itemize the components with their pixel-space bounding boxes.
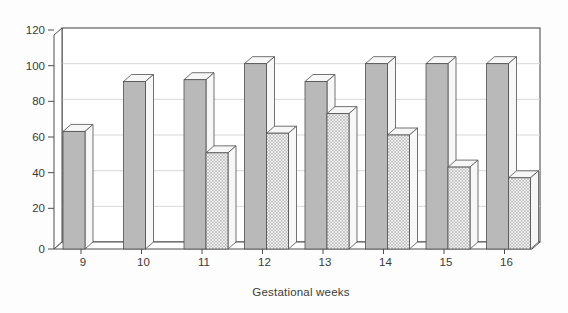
bar-week15-solid-front-face bbox=[426, 64, 448, 249]
bar-week16-hatched-side-face bbox=[531, 171, 539, 249]
y-tick-label: 100 bbox=[26, 60, 45, 72]
bar-week10-solid-side-face bbox=[146, 75, 154, 250]
bar-week16-solid-front-face bbox=[487, 64, 509, 249]
bar-week9-solid-front-face bbox=[63, 131, 85, 249]
x-tick-label: 9 bbox=[80, 256, 86, 268]
bar-week14-solid-front-face bbox=[366, 64, 388, 249]
bar-week15-hatched-side-face bbox=[470, 160, 478, 249]
bar-week13-solid-front-face bbox=[305, 82, 327, 250]
bar-chart-figure: 020406080100120910111213141516 Gestation… bbox=[0, 0, 568, 313]
y-tick-label: 0 bbox=[39, 243, 45, 255]
bar-week14-hatched-front-face bbox=[388, 135, 410, 249]
bar-week13-hatched-side-face bbox=[349, 107, 357, 249]
x-tick-label: 15 bbox=[440, 256, 453, 268]
bar-week13-hatched-front-face bbox=[327, 114, 349, 249]
x-tick-label: 12 bbox=[258, 256, 271, 268]
y-tick-label: 40 bbox=[32, 167, 45, 179]
bar-week12-hatched-side-face bbox=[289, 126, 297, 249]
y-tick-label: 20 bbox=[32, 202, 45, 214]
bar-week12-solid-front-face bbox=[245, 64, 267, 249]
bar-week11-hatched-front-face bbox=[206, 153, 228, 249]
y-tick-label: 80 bbox=[32, 95, 45, 107]
y-tick-label: 60 bbox=[32, 131, 45, 143]
bar-week14-hatched-side-face bbox=[410, 128, 418, 249]
x-tick-label: 10 bbox=[137, 256, 150, 268]
plot-left-wall bbox=[54, 28, 62, 249]
y-tick-label: 120 bbox=[26, 24, 45, 36]
bar-week12-hatched-front-face bbox=[267, 133, 289, 249]
bar-week11-solid-front-face bbox=[184, 80, 206, 249]
x-tick-label: 16 bbox=[500, 256, 513, 268]
bar-week11-hatched-side-face bbox=[228, 146, 236, 249]
bar-week9-solid-side-face bbox=[85, 124, 93, 249]
x-tick-label: 14 bbox=[379, 256, 392, 268]
bar-week16-hatched-front-face bbox=[509, 178, 531, 249]
x-axis-title: Gestational weeks bbox=[62, 286, 540, 298]
x-tick-label: 13 bbox=[319, 256, 332, 268]
bar-week10-solid-front-face bbox=[124, 82, 146, 250]
bar-week15-hatched-front-face bbox=[448, 167, 470, 249]
bar-chart-canvas: 020406080100120910111213141516 bbox=[0, 0, 568, 313]
x-tick-label: 11 bbox=[198, 256, 210, 268]
